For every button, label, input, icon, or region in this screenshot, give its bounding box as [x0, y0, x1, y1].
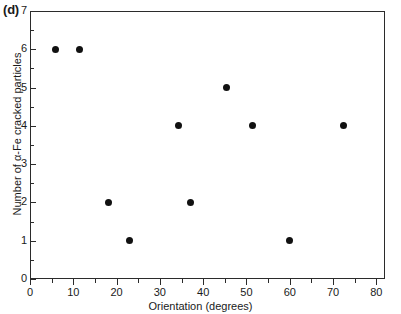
y-tick-label-text: 7: [5, 5, 27, 16]
x-tick-major: [117, 279, 118, 285]
x-tick-minor: [52, 279, 53, 283]
x-tick-major: [203, 279, 204, 285]
y-tick-major: [30, 164, 36, 165]
x-tick-label: 20: [102, 286, 132, 298]
x-tick-major: [333, 279, 334, 285]
x-tick-minor: [138, 279, 139, 283]
x-tick-major: [30, 279, 31, 285]
y-tick-major: [30, 11, 36, 12]
y-tick-minor: [30, 222, 34, 223]
data-point: [52, 46, 59, 53]
y-tick-label: 0: [0, 273, 27, 284]
y-tick-label: 7: [0, 5, 27, 16]
y-tick-major: [30, 241, 36, 242]
x-tick-label: 80: [361, 286, 391, 298]
x-tick-label: 50: [231, 286, 261, 298]
y-tick-minor: [30, 145, 34, 146]
x-tick-label: 30: [145, 286, 175, 298]
data-point: [187, 199, 194, 206]
x-axis-title: Orientation (degrees): [0, 300, 401, 312]
y-tick-minor: [30, 68, 34, 69]
x-tick-minor: [95, 279, 96, 283]
x-tick-major: [246, 279, 247, 285]
y-tick-minor: [30, 183, 34, 184]
x-tick-major: [376, 279, 377, 285]
data-point: [126, 237, 133, 244]
x-tick-label: 70: [318, 286, 348, 298]
x-tick-label: 0: [15, 286, 45, 298]
x-tick-label: 40: [188, 286, 218, 298]
x-tick-major: [290, 279, 291, 285]
data-point: [223, 84, 230, 91]
x-tick-major: [73, 279, 74, 285]
data-point: [340, 122, 347, 129]
y-tick-label-text: 0: [5, 273, 27, 284]
y-tick-major: [30, 88, 36, 89]
y-tick-minor: [30, 107, 34, 108]
y-tick-major: [30, 202, 36, 203]
y-axis-title: Number of α-Fe cracked particles: [11, 19, 23, 249]
x-tick-minor: [268, 279, 269, 283]
scatter-plot-figure: (d) 01234567 01020304050607080 Orientati…: [0, 0, 401, 314]
x-tick-minor: [311, 279, 312, 283]
y-tick-major: [30, 49, 36, 50]
x-tick-label: 10: [58, 286, 88, 298]
y-tick-minor: [30, 260, 34, 261]
y-tick-major: [30, 126, 36, 127]
x-tick-minor: [182, 279, 183, 283]
x-tick-label: 60: [275, 286, 305, 298]
x-tick-major: [160, 279, 161, 285]
plot-area: [30, 11, 385, 279]
y-tick-minor: [30, 30, 34, 31]
x-tick-minor: [225, 279, 226, 283]
x-tick-minor: [355, 279, 356, 283]
